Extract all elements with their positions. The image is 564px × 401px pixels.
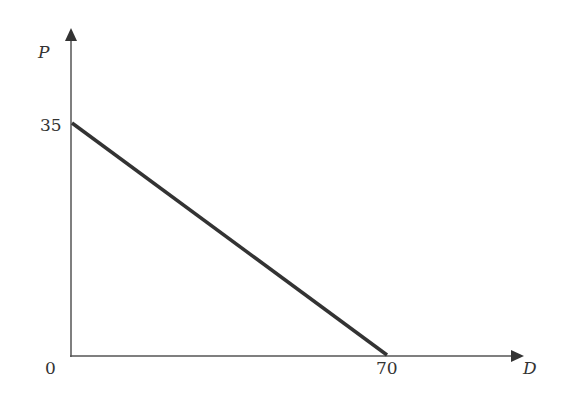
origin-label: 0: [45, 358, 56, 378]
demand-chart: P 35 0 70 D: [0, 0, 564, 401]
y-axis-arrow-icon: [65, 28, 77, 41]
y-axis-label: P: [37, 42, 50, 62]
y-tick-35: 35: [40, 115, 62, 135]
x-tick-70: 70: [376, 358, 398, 378]
demand-line: [72, 123, 387, 355]
x-axis-label: D: [522, 358, 537, 378]
